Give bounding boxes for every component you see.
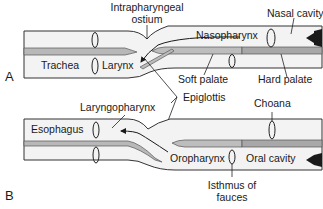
- label-trachea: Trachea: [41, 59, 79, 71]
- label-laryngopharynx: Laryngopharynx: [80, 101, 156, 113]
- label-intrapharyngeal: Intrapharyngeal: [111, 1, 184, 13]
- label-fauces: fauces: [217, 191, 248, 203]
- panel-label-a: A: [5, 69, 14, 84]
- panel-b: Laryngopharynx Choana Esophagus Orophary…: [5, 97, 322, 203]
- label-choana: Choana: [254, 97, 291, 109]
- hard-palate-shape: [242, 47, 322, 54]
- hard-palate-shape-b: [242, 140, 322, 147]
- label-oral-cavity: Oral cavity: [246, 152, 296, 164]
- label-ostium: ostium: [132, 13, 163, 25]
- label-oropharynx: Oropharynx: [170, 152, 226, 164]
- label-larynx: Larynx: [102, 59, 134, 71]
- airway-diagram: Intrapharyngeal ostium Nasal cavity Naso…: [0, 0, 323, 209]
- label-hard-palate: Hard palate: [258, 73, 312, 85]
- panel-label-b: B: [5, 188, 14, 203]
- soft-palate-shape-b: [172, 140, 242, 147]
- panel-a: Intrapharyngeal ostium Nasal cavity Naso…: [5, 1, 323, 85]
- label-isthmus: Isthmus of: [208, 179, 257, 191]
- label-epiglottis: Epiglottis: [183, 91, 226, 103]
- label-nasopharynx: Nasopharynx: [196, 29, 259, 41]
- palate-lower-a: [24, 48, 137, 55]
- label-soft-palate: Soft palate: [178, 73, 228, 85]
- label-nasal-cavity: Nasal cavity: [267, 7, 323, 19]
- label-esophagus: Esophagus: [31, 123, 84, 135]
